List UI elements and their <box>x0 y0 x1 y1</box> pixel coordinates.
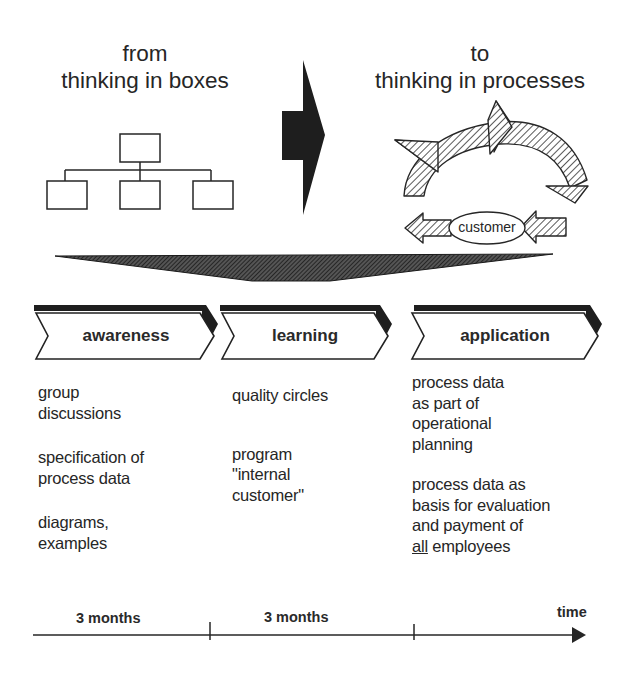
customer-label: customer <box>449 219 525 235</box>
application-item: process data as basis for evaluation and… <box>412 474 627 556</box>
org-chart-icon <box>47 134 233 209</box>
timeline-axis-label: time <box>557 604 587 620</box>
transition-arrow-icon <box>282 60 325 215</box>
heading-to-line1: to <box>335 40 625 67</box>
phase-label-learning: learning <box>230 326 380 346</box>
timeline-segment-2: 3 months <box>264 609 328 625</box>
application-items: process data as part of operational plan… <box>412 372 627 576</box>
application-item: process data as part of operational plan… <box>412 372 627 454</box>
learning-item: quality circles <box>232 385 402 406</box>
heading-to-line2: thinking in processes <box>335 67 625 94</box>
phase-label-application: application <box>420 326 590 346</box>
funnel-wedge-icon <box>55 254 553 281</box>
learning-item: program "internal customer" <box>232 444 402 506</box>
timeline-segment-1: 3 months <box>76 610 140 626</box>
awareness-item: diagrams, examples <box>38 512 208 553</box>
phase-label-awareness: awareness <box>46 326 206 346</box>
learning-items: quality circles program "internal custom… <box>232 385 402 525</box>
timeline-arrowhead-icon <box>572 627 586 643</box>
heading-to: to thinking in processes <box>335 40 625 94</box>
heading-from-line1: from <box>40 40 250 67</box>
awareness-item: specification of process data <box>38 447 208 488</box>
awareness-item: group discussions <box>38 382 208 423</box>
awareness-items: group discussions specification of proce… <box>38 382 208 573</box>
heading-from-line2: thinking in boxes <box>40 67 250 94</box>
heading-from: from thinking in boxes <box>40 40 250 94</box>
